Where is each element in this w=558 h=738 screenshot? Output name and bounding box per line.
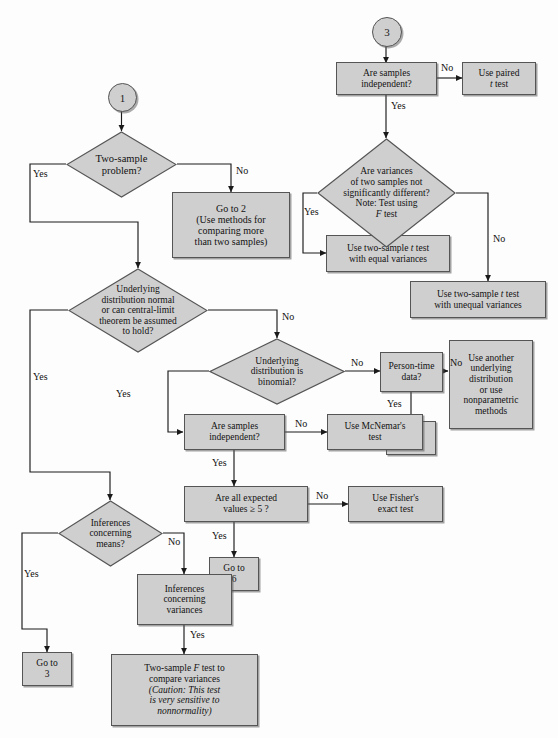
paired-t-line2-post: test <box>493 79 509 89</box>
flowchart-page: 1 Two-sample problem? Go to 2 (Use metho… <box>0 0 558 738</box>
node-person-time-data-label: Person-time data? <box>386 360 438 383</box>
edge-label-variance-diff-no: No <box>493 233 505 244</box>
node-use-another-distribution-label: Use another underlying distribution or u… <box>461 352 522 418</box>
node-go-to-2-label: Go to 2 (Use methods for comparing more … <box>192 202 271 249</box>
node-use-mcnemar-test[interactable]: Use McNemar's test <box>327 414 423 450</box>
node-use-another-distribution[interactable]: Use another underlying distribution or u… <box>449 340 533 429</box>
decision-underlying-normal[interactable]: Underlying distribution normal or can ce… <box>68 268 208 353</box>
edge-label-two-sample-problem-yes: Yes <box>33 168 48 179</box>
node-use-paired-t-test-label: Use paired t test <box>476 67 523 90</box>
node-are-samples-independent-top[interactable]: Are samples independent? <box>336 62 437 95</box>
decision-inferences-means[interactable]: Inferences concerning means? <box>58 500 163 567</box>
node-are-samples-independent-mid[interactable]: Are samples independent? <box>184 414 285 450</box>
start-node-1-label: 1 <box>120 92 126 104</box>
paired-t-line1: Use paired <box>479 68 520 79</box>
node-use-fisher-exact-test[interactable]: Use Fisher's exact test <box>348 486 443 522</box>
diamond-shape <box>209 338 345 405</box>
decision-two-sample-problem[interactable]: Two-sample problem? <box>66 131 177 198</box>
f-test-line1-post: test to <box>199 663 224 673</box>
edge-label-expected-values-no: No <box>316 490 328 501</box>
equal-var-line2: with equal variances <box>347 254 429 265</box>
node-person-time-data[interactable]: Person-time data? <box>380 352 443 392</box>
node-go-to-3-label: Go to 3 <box>33 657 60 680</box>
diamond-shape <box>58 500 163 567</box>
start-node-1[interactable]: 1 <box>108 83 137 112</box>
start-node-3-label: 3 <box>384 26 390 38</box>
f-test-line2: compare variances <box>144 674 224 685</box>
f-test-caution-line3: nonnormality) <box>144 706 224 717</box>
edge-label-independent-mid-no: No <box>295 418 307 429</box>
edge-label-means-yes: Yes <box>24 568 39 579</box>
node-all-expected-values-label: Are all expected values ≥ 5 ? <box>212 492 280 515</box>
unequal-var-line2: with unequal variances <box>434 300 522 311</box>
node-are-samples-independent-top-label: Are samples independent? <box>358 67 415 90</box>
unequal-var-line1-pre: Use two-sample <box>437 289 501 299</box>
node-two-sample-unequal-variances[interactable]: Use two-sample t test with unequal varia… <box>410 281 546 318</box>
f-test-caution-line1: (Caution: This test <box>144 685 224 696</box>
node-inferences-variances-label: Inferences concerning variances <box>160 583 208 617</box>
edge-label-underlying-normal-no: No <box>282 311 294 322</box>
decision-underlying-binomial[interactable]: Underlying distribution is binomial? <box>209 338 345 405</box>
node-use-fisher-exact-test-label: Use Fisher's exact test <box>369 492 421 515</box>
edge-label-underlying-normal-yes: Yes <box>33 371 48 382</box>
unequal-var-line1-post: test <box>503 289 519 299</box>
node-use-mcnemar-test-label: Use McNemar's test <box>341 420 408 443</box>
diamond-shape <box>66 131 177 198</box>
start-node-3[interactable]: 3 <box>372 17 402 47</box>
node-two-sample-f-test-label: Two-sample F test to compare variances (… <box>141 662 227 717</box>
decision-are-variances-not-different[interactable]: Are variances of two samples not signifi… <box>317 138 456 248</box>
edge-label-independent-top-no: No <box>441 62 453 73</box>
node-all-expected-values[interactable]: Are all expected values ≥ 5 ? <box>184 486 308 522</box>
diamond-shape <box>317 138 456 248</box>
diamond-shape <box>68 268 208 353</box>
edge-label-independent-top-yes: Yes <box>391 100 406 111</box>
node-two-sample-unequal-variances-label: Use two-sample t test with unequal varia… <box>431 288 525 311</box>
node-go-to-2[interactable]: Go to 2 (Use methods for comparing more … <box>172 192 290 258</box>
edge-label-independent-mid-yes: Yes <box>212 457 227 468</box>
f-test-caution-line2: is very sensitive to <box>144 695 224 706</box>
node-inferences-variances[interactable]: Inferences concerning variances <box>137 574 232 625</box>
edge-label-expected-values-yes: Yes <box>212 530 227 541</box>
node-go-to-3[interactable]: Go to 3 <box>22 652 72 686</box>
edge-label-variances-yes: Yes <box>190 629 205 640</box>
node-use-paired-t-test[interactable]: Use paired t test <box>462 62 536 95</box>
node-two-sample-f-test[interactable]: Two-sample F test to compare variances (… <box>111 654 258 726</box>
edge-label-two-sample-problem-no: No <box>236 165 248 176</box>
edge-label-binomial-yes: Yes <box>116 388 131 399</box>
edge-label-means-no: No <box>168 536 180 547</box>
edge-label-person-time-no: No <box>450 357 462 368</box>
edge-label-binomial-no: No <box>351 357 363 368</box>
f-test-line1-pre: Two-sample <box>144 663 193 673</box>
edge-label-person-time-yes: Yes <box>387 398 402 409</box>
node-are-samples-independent-mid-label: Are samples independent? <box>206 420 263 443</box>
